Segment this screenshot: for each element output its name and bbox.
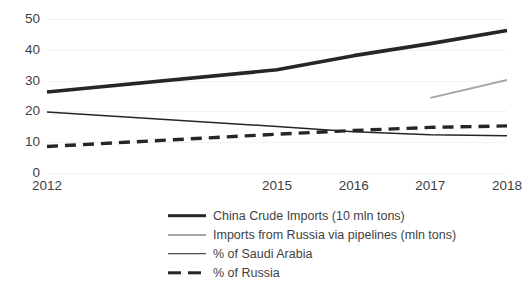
legend-item[interactable]: China Crude Imports (10 mln tons) [0,206,528,225]
y-tick-label: 10 [2,135,40,149]
x-tick-label: 2018 [492,178,522,194]
series-line [47,112,507,136]
gridline [47,173,507,174]
legend-item[interactable]: % of Russia [0,263,528,282]
legend-label: China Crude Imports (10 mln tons) [213,209,405,223]
legend-label: % of Russia [213,266,280,280]
x-tick-label: 2012 [32,178,62,194]
line-chart: 01020304050 20122015201620172018 China C… [0,0,528,287]
y-tick-label: 50 [2,12,40,26]
chart-legend: China Crude Imports (10 mln tons)Imports… [0,206,528,282]
legend-item[interactable]: Imports from Russia via pipelines (mln t… [0,225,528,244]
x-tick-label: 2016 [339,178,369,194]
series-line [47,30,507,92]
y-tick-label: 20 [2,104,40,118]
legend-item[interactable]: % of Saudi Arabia [0,244,528,263]
legend-swatch-icon [168,248,206,260]
series-line [47,126,507,147]
y-tick-label: 30 [2,74,40,88]
x-axis: 20122015201620172018 [47,178,507,198]
series-layer [47,19,507,173]
series-line [430,80,507,98]
legend-swatch-icon [168,267,206,279]
legend-swatch-icon [168,229,206,241]
x-tick-label: 2015 [262,178,292,194]
legend-swatch-icon [168,210,206,222]
y-tick-label: 40 [2,43,40,57]
legend-label: Imports from Russia via pipelines (mln t… [213,228,456,242]
x-tick-label: 2017 [415,178,445,194]
plot-area [47,19,507,173]
legend-label: % of Saudi Arabia [213,247,312,261]
